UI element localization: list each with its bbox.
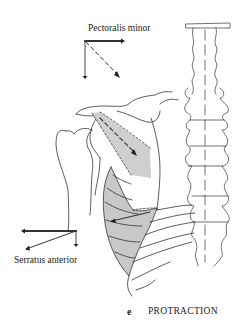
pectoralis-vector-icon	[83, 39, 126, 80]
spine-outline	[185, 23, 230, 266]
pectoralis-minor-muscle	[92, 112, 151, 178]
figure-title: PROTRACTION	[148, 306, 218, 316]
humerus-outline	[56, 128, 93, 232]
anatomy-figure	[0, 0, 252, 334]
serratus-anterior-muscle	[103, 167, 157, 276]
serratus-vector-icon	[21, 229, 79, 251]
serratus-anterior-label: Serratus anterior	[14, 255, 77, 265]
pectoralis-minor-label: Pectoralis minor	[88, 23, 151, 33]
clavicle-outline	[76, 92, 178, 123]
panel-letter: e	[127, 306, 131, 317]
